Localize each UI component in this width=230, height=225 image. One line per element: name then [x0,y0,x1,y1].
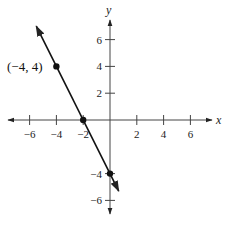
graph-line [36,26,118,191]
x-axis-label: x [215,113,222,127]
x-tick-label: −6 [24,128,36,140]
point-label: (−4, 4) [7,59,43,74]
y-tick-label: −4 [90,168,102,180]
y-tick-label: −6 [90,194,102,206]
y-tick-label: 6 [97,34,103,46]
y-tick-label: 2 [97,87,103,99]
coordinate-plane: x y −6−4−2246−6−4246 (−4, 4) [0,0,230,225]
data-point [80,117,86,123]
data-point [107,170,113,176]
x-tick-label: 6 [188,128,194,140]
x-tick-label: −4 [51,128,63,140]
x-tick-label: 2 [134,128,140,140]
y-axis-label: y [105,3,112,17]
data-point [53,63,59,69]
x-tick-label: 4 [161,128,167,140]
y-tick-label: 4 [97,60,103,72]
